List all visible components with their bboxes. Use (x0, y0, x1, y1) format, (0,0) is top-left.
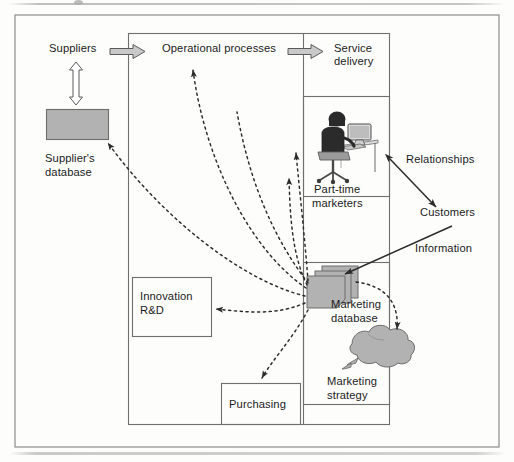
information-label: Information (415, 242, 472, 256)
outer-frame (15, 15, 499, 447)
suppliers-database-shape (47, 110, 109, 140)
marketing-database-label-line2: database (331, 312, 378, 326)
dashed-db-to-innovation-rd (216, 303, 305, 312)
purchasing-label: Purchasing (229, 398, 286, 412)
marketing-database-label-line1: Marketing (331, 298, 381, 312)
operational-to-service-arrow (288, 45, 323, 59)
part-time-marketers-label-line1: Part-time (314, 183, 360, 197)
dashed-db-to-purchasing (262, 310, 308, 378)
suppliers-label: Suppliers (49, 42, 97, 56)
innovation-rd-label-line1: Innovation (140, 290, 193, 304)
relationships-label: Relationships (406, 153, 474, 167)
part-time-marketer-icon (317, 112, 378, 185)
dashed-db-to-suppliers-database (108, 143, 305, 296)
operational-processes-label: Operational processes (162, 42, 276, 56)
suppliers-database-double-arrow (70, 62, 83, 105)
marketing-strategy-cloud (342, 325, 415, 369)
customers-label: Customers (420, 206, 475, 220)
marketing-strategy-label-line1: Marketing (327, 375, 377, 389)
service-delivery-label-line2: delivery (334, 55, 373, 69)
suppliers-to-operational-arrow (110, 45, 145, 59)
suppliers-database-label-line2: database (45, 166, 92, 180)
part-time-marketers-label-line2: marketers (312, 197, 363, 211)
figure-canvas: Suppliers Operational processes Service … (0, 0, 514, 462)
innovation-rd-label-line2: R&D (140, 304, 164, 318)
suppliers-database-label-line1: Supplier's (45, 152, 95, 166)
dashed-db-to-operational-processes (193, 70, 306, 288)
service-delivery-label-line1: Service (334, 42, 372, 56)
diagram-svg (0, 0, 514, 462)
marketing-strategy-label-line2: strategy (327, 389, 368, 403)
